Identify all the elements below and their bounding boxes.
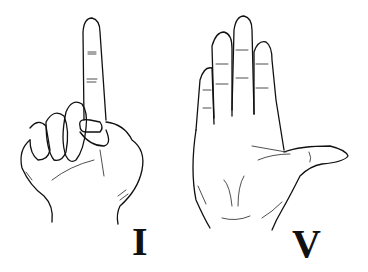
hand-open-palm <box>193 16 348 230</box>
hand-one-finger <box>21 18 143 224</box>
numeral-five-label: V <box>292 224 321 264</box>
numeral-one-label: I <box>132 222 148 262</box>
